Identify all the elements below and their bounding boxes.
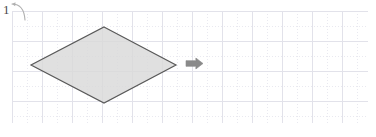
annotation-layer: 1 — [0, 0, 376, 137]
rotate-arrow-icon — [12, 2, 25, 20]
drawing-canvas[interactable]: 1 — [0, 0, 376, 137]
step-number-label: 1 — [3, 2, 10, 17]
